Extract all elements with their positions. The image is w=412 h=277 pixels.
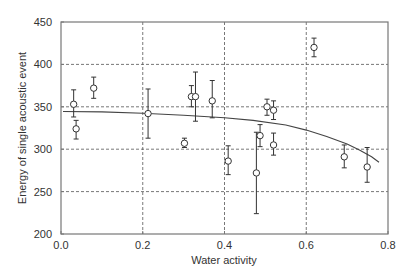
open-circle-marker [70, 101, 76, 107]
open-circle-marker [253, 170, 259, 176]
x-tick-label: 0.4 [217, 239, 232, 251]
y-axis-ticks: 200250300350400450 [34, 16, 64, 240]
open-circle-marker [145, 110, 151, 116]
data-point [70, 90, 76, 117]
data-point [91, 77, 97, 98]
y-tick-label: 450 [34, 16, 52, 28]
x-tick-label: 0.2 [135, 239, 150, 251]
open-circle-marker [270, 142, 276, 148]
y-axis-label: Energy of single acoustic event [16, 52, 28, 204]
open-circle-marker [364, 164, 370, 170]
data-point [209, 81, 215, 118]
open-circle-marker [311, 44, 317, 50]
y-tick-label: 350 [34, 101, 52, 113]
data-point [73, 120, 79, 139]
data-point [225, 146, 231, 175]
open-circle-marker [181, 140, 187, 146]
data-point [311, 38, 317, 57]
y-tick-label: 250 [34, 186, 52, 198]
open-circle-marker [264, 104, 270, 110]
data-point [181, 138, 187, 147]
open-circle-marker [91, 85, 97, 91]
data-point [341, 145, 347, 168]
x-axis-label: Water activity [191, 254, 257, 266]
data-point [257, 125, 263, 147]
data-points [70, 38, 370, 214]
open-circle-marker [257, 132, 263, 138]
y-tick-label: 400 [34, 58, 52, 70]
open-circle-marker [192, 93, 198, 99]
open-circle-marker [225, 158, 231, 164]
data-point [270, 101, 276, 120]
fit-line [63, 112, 379, 163]
data-point [270, 133, 276, 155]
x-tick-label: 0.0 [53, 239, 68, 251]
data-point [253, 132, 259, 213]
data-point [192, 72, 198, 121]
data-point [145, 89, 151, 138]
grid-lines [61, 22, 388, 234]
open-circle-marker [73, 126, 79, 132]
open-circle-marker [209, 98, 215, 104]
open-circle-marker [270, 107, 276, 113]
y-tick-label: 200 [34, 228, 52, 240]
chart: 0.00.20.40.60.8 200250300350400450 Water… [0, 0, 412, 277]
open-circle-marker [341, 154, 347, 160]
data-point [264, 99, 270, 115]
y-tick-label: 300 [34, 143, 52, 155]
fit-curve [63, 112, 379, 163]
x-tick-label: 0.6 [299, 239, 314, 251]
x-tick-label: 0.8 [380, 239, 395, 251]
